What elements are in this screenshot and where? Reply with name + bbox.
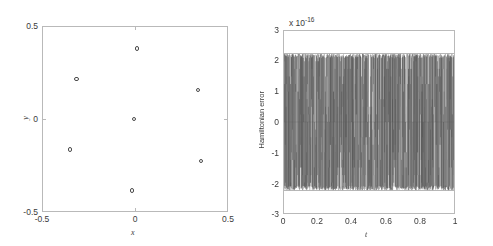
scatter-point (130, 188, 134, 192)
right-yaxis-label: Hamiltonian error (258, 80, 266, 160)
exponent-prefix: x 10 (289, 18, 305, 28)
right-ytick-2: 2 (261, 56, 279, 65)
left-plot-panel: 0.5 0 -0.5 -0.5 0 0.5 x y (0, 0, 248, 246)
scatter-point (199, 159, 203, 163)
right-xtick-1: 1 (443, 217, 467, 226)
figure-canvas: 0.5 0 -0.5 -0.5 0 0.5 x y x 10-16 3 2 1 … (0, 0, 493, 246)
right-yaxis-exponent: x 10-16 (289, 17, 314, 27)
hamiltonian-error-trace (284, 31, 454, 213)
scatter-point (196, 88, 200, 92)
right-xaxis-label: t (365, 231, 367, 239)
scatter-point (74, 77, 78, 81)
right-ytick-neg2: -2 (257, 180, 279, 189)
right-xtick-08: 0.8 (406, 217, 434, 226)
scatter-marker-layer (0, 0, 248, 246)
scatter-point (132, 117, 136, 121)
scatter-point (68, 147, 72, 151)
right-plot-panel: x 10-16 3 2 1 0 -1 -2 -3 0 0.2 0.4 0.6 0… (245, 0, 493, 246)
right-xtick-06: 0.6 (372, 217, 400, 226)
right-ytick-3: 3 (261, 26, 279, 35)
right-xtick-04: 0.4 (337, 217, 365, 226)
right-xtick-0: 0 (271, 217, 295, 226)
exponent-value: -16 (305, 16, 314, 23)
right-xtick-02: 0.2 (303, 217, 331, 226)
scatter-point (135, 46, 139, 50)
